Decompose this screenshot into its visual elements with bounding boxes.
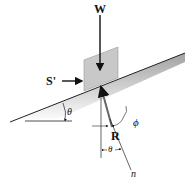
normal-angle-arc-right xyxy=(115,149,121,150)
diagram-canvas: W S' θ R ϕ θ n xyxy=(0,0,188,180)
applied-force-label: S' xyxy=(46,75,56,87)
friction-angle-label: ϕ xyxy=(133,117,139,128)
normal-axis xyxy=(110,119,131,170)
incline-angle-label: θ xyxy=(67,107,72,117)
normal-angle-label: θ xyxy=(108,145,112,154)
friction-angle-arc xyxy=(112,116,124,126)
diagram-graphics xyxy=(0,0,188,180)
weight-label: W xyxy=(94,3,106,15)
reaction-label: R xyxy=(111,130,120,142)
normal-axis-label: n xyxy=(131,169,136,179)
